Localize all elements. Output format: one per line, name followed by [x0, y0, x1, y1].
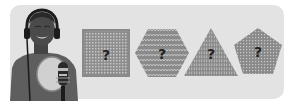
- hexagon-zigzag-icon: ?: [134, 28, 190, 78]
- question-mark: ?: [158, 46, 166, 62]
- singer-with-microphone-icon: [8, 8, 80, 101]
- question-mark: ?: [102, 47, 110, 63]
- pentagon-dots-icon: ?: [233, 27, 283, 77]
- triangle-stripes-icon: ?: [183, 27, 239, 77]
- square-grid-icon: ?: [82, 29, 130, 77]
- question-mark: ?: [254, 44, 262, 60]
- question-mark: ?: [207, 46, 215, 62]
